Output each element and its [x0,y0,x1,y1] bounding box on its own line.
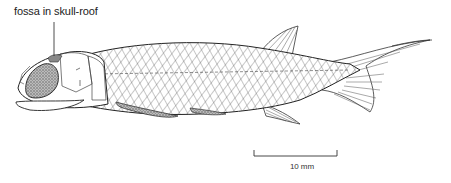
scale-bar [254,150,337,156]
head [16,51,108,110]
fish-drawing [0,0,451,183]
fossa-annotation-label: fossa in skull-roof [14,5,98,17]
lower-jaw [16,100,84,111]
fish-illustration-figure: fossa in skull-roof 10 mm [0,0,451,183]
scale-bar-label: 10 mm [290,162,314,171]
